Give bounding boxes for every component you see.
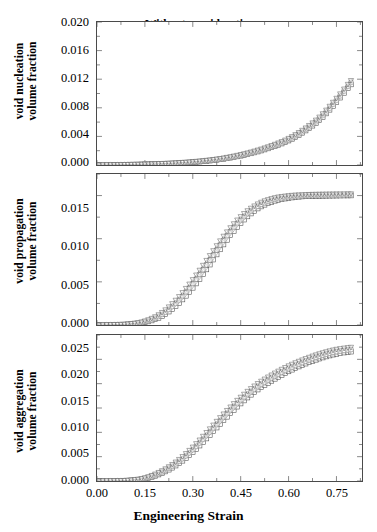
panel1-ytick-0.016: 0.016 <box>27 43 89 58</box>
panel2-ytick-0.005: 0.005 <box>27 278 89 293</box>
panel-void-nucleation <box>96 21 363 166</box>
panel3-ytick-0.010: 0.010 <box>27 420 89 435</box>
panel1-y-axis-title-line1: void nucleation <box>13 14 26 149</box>
panel3-ytick-0.025: 0.025 <box>27 341 89 356</box>
panel3-ytick-0.015: 0.015 <box>27 394 89 409</box>
xtick-0.75: 0.75 <box>315 486 359 501</box>
panel3-ytick-0.005: 0.005 <box>27 446 89 461</box>
panel1-ytick-0.020: 0.020 <box>27 15 89 30</box>
panel2-y-axis-title-line1: void propagation <box>13 174 26 309</box>
panel3-y-axis-title-line1: void aggregation <box>13 344 26 479</box>
panel1-ytick-0.012: 0.012 <box>27 71 89 86</box>
panel-void-propagation <box>96 173 363 326</box>
xtick-0.00: 0.00 <box>75 486 119 501</box>
x-axis-title: Engineering Strain <box>0 508 377 524</box>
panel-void-aggregation <box>96 334 363 482</box>
xtick-0.15: 0.15 <box>123 486 167 501</box>
xtick-0.60: 0.60 <box>267 486 311 501</box>
panel2-ytick-0.015: 0.015 <box>27 201 89 216</box>
panel1-ytick-0.000: 0.000 <box>27 155 89 170</box>
panel1-ytick-0.004: 0.004 <box>27 127 89 142</box>
panel3-ytick-0.020: 0.020 <box>27 367 89 382</box>
xtick-0.30: 0.30 <box>171 486 215 501</box>
figure: Without consideration With residual stre… <box>0 0 377 532</box>
panel2-ytick-0.010: 0.010 <box>27 239 89 254</box>
panel1-ytick-0.008: 0.008 <box>27 99 89 114</box>
panel2-ytick-0.000: 0.000 <box>27 316 89 331</box>
xtick-0.45: 0.45 <box>219 486 263 501</box>
